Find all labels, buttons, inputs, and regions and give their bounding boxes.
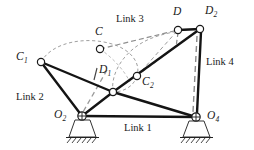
joint-c xyxy=(96,45,103,52)
joint-d xyxy=(174,26,181,33)
dashed-c-to-d xyxy=(100,30,178,49)
link-d1-o4 xyxy=(113,92,196,117)
dashed-d2-to-o4 xyxy=(193,36,197,112)
label-d2: D2 xyxy=(205,5,217,17)
label-link3: Link 3 xyxy=(116,14,144,25)
ground-o4-hatching xyxy=(181,138,210,143)
joint-group xyxy=(37,25,203,95)
joint-c1 xyxy=(37,58,44,65)
joint-d2 xyxy=(196,25,203,32)
tick-marks xyxy=(94,68,97,80)
ground-o2 xyxy=(66,120,99,143)
link3-d1-d2 xyxy=(113,29,200,92)
label-d: D xyxy=(173,6,181,18)
label-o2: O2 xyxy=(54,109,66,121)
link-d1-o2 xyxy=(82,92,113,116)
ground-pivot-o2 xyxy=(78,112,86,120)
ground-pivot-o4 xyxy=(192,113,200,121)
linkage-diagram-figure: C1 C C2 D D1 D2 O2 O4 Link 1 Link 2 Link… xyxy=(0,0,254,150)
joint-c2 xyxy=(133,72,140,79)
label-d1: D1 xyxy=(99,64,111,76)
ground-o4-trapezoid xyxy=(183,121,210,137)
ground-o2-trapezoid xyxy=(69,120,96,137)
ground-o2-hatching xyxy=(67,138,96,143)
label-c1: C1 xyxy=(16,51,27,63)
ground-o4 xyxy=(180,121,213,143)
label-link4: Link 4 xyxy=(206,57,234,68)
label-c: C xyxy=(95,26,103,38)
joint-d1 xyxy=(109,88,116,95)
label-c2: C2 xyxy=(142,76,153,88)
dashed-arc-group xyxy=(41,29,200,92)
tick-d1 xyxy=(94,68,97,80)
link4-d2-o4 xyxy=(197,32,201,113)
label-link2: Link 2 xyxy=(16,92,44,103)
link1-o2-o4 xyxy=(82,116,196,117)
label-o4: O4 xyxy=(207,110,219,122)
label-link1: Link 1 xyxy=(124,123,152,134)
